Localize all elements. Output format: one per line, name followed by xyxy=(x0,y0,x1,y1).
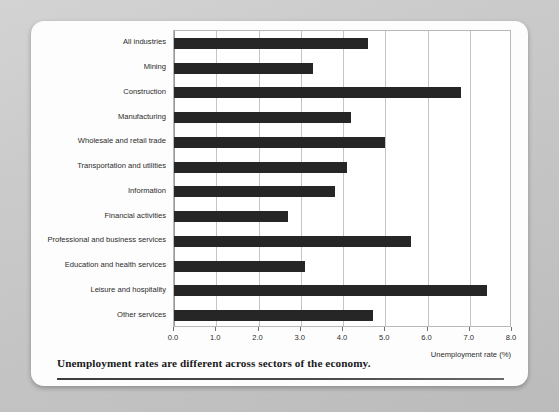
axis-tick xyxy=(511,327,512,331)
figure-caption: Unemployment rates are different across … xyxy=(57,357,371,369)
axis-tick xyxy=(427,327,428,331)
caption-divider xyxy=(57,378,504,380)
axis-tick xyxy=(342,327,343,331)
bar xyxy=(174,112,351,123)
plot-area xyxy=(173,30,511,327)
bar xyxy=(174,162,347,173)
category-label: All industries xyxy=(123,38,166,46)
gridline xyxy=(343,31,344,326)
bar-row xyxy=(174,211,510,222)
y-axis-line xyxy=(174,31,175,326)
gridline xyxy=(470,31,471,326)
bar xyxy=(174,310,373,321)
axis-tick-label: 1.0 xyxy=(195,334,235,342)
bar-row xyxy=(174,38,510,49)
category-label: Financial activities xyxy=(104,212,166,220)
axis-tick xyxy=(300,327,301,331)
bar-row xyxy=(174,236,510,247)
bar xyxy=(174,236,411,247)
axis-tick xyxy=(258,327,259,331)
bar-row xyxy=(174,87,510,98)
bar xyxy=(174,137,385,148)
bar xyxy=(174,261,305,272)
bar xyxy=(174,38,368,49)
category-label: Mining xyxy=(144,63,166,71)
axis-tick-label: 8.0 xyxy=(491,334,531,342)
bar xyxy=(174,285,487,296)
category-label: Construction xyxy=(123,88,166,96)
bar-row xyxy=(174,137,510,148)
bar-row xyxy=(174,186,510,197)
bar xyxy=(174,63,313,74)
axis-tick-label: 6.0 xyxy=(407,334,447,342)
axis-tick xyxy=(173,327,174,331)
category-label: Transportation and utilities xyxy=(77,162,166,170)
bar xyxy=(174,211,288,222)
axis-tick-label: 4.0 xyxy=(322,334,362,342)
bar-row xyxy=(174,162,510,173)
bar-row xyxy=(174,112,510,123)
category-label: Information xyxy=(128,187,166,195)
bar-chart: All industriesMiningConstructionManufact… xyxy=(31,21,528,339)
bar-row xyxy=(174,63,510,74)
category-label: Manufacturing xyxy=(118,113,166,121)
axis-tick-label: 5.0 xyxy=(364,334,404,342)
bar xyxy=(174,87,461,98)
bar-row xyxy=(174,261,510,272)
axis-tick-label: 7.0 xyxy=(449,334,489,342)
bar xyxy=(174,186,335,197)
category-label: Wholesale and retail trade xyxy=(78,137,166,145)
bar-row xyxy=(174,285,510,296)
gridline xyxy=(385,31,386,326)
category-label: Other services xyxy=(117,311,166,319)
axis-tick xyxy=(384,327,385,331)
axis-tick-label: 3.0 xyxy=(280,334,320,342)
category-label: Leisure and hospitality xyxy=(90,286,166,294)
bar-row xyxy=(174,310,510,321)
gridline xyxy=(259,31,260,326)
axis-tick xyxy=(215,327,216,331)
category-label: Education and health services xyxy=(65,261,166,269)
category-label: Professional and business services xyxy=(47,236,166,244)
axis-tick-label: 0.0 xyxy=(153,334,193,342)
figure-card: All industriesMiningConstructionManufact… xyxy=(31,21,528,386)
axis-tick xyxy=(469,327,470,331)
gridline xyxy=(301,31,302,326)
axis-tick-label: 2.0 xyxy=(238,334,278,342)
gridline xyxy=(216,31,217,326)
gridline xyxy=(428,31,429,326)
x-axis-title: Unemployment rate (%) xyxy=(431,350,511,359)
